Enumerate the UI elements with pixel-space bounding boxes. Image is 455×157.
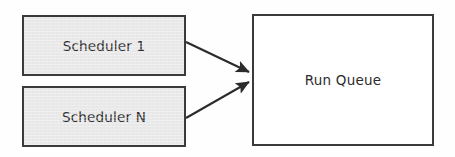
diagram-canvas: Scheduler 1 Scheduler N Run Queue — [0, 0, 455, 157]
arrow-scheduler-1-to-run-queue — [186, 42, 249, 72]
edge-layer — [0, 0, 455, 157]
arrow-scheduler-n-to-run-queue — [186, 82, 249, 118]
